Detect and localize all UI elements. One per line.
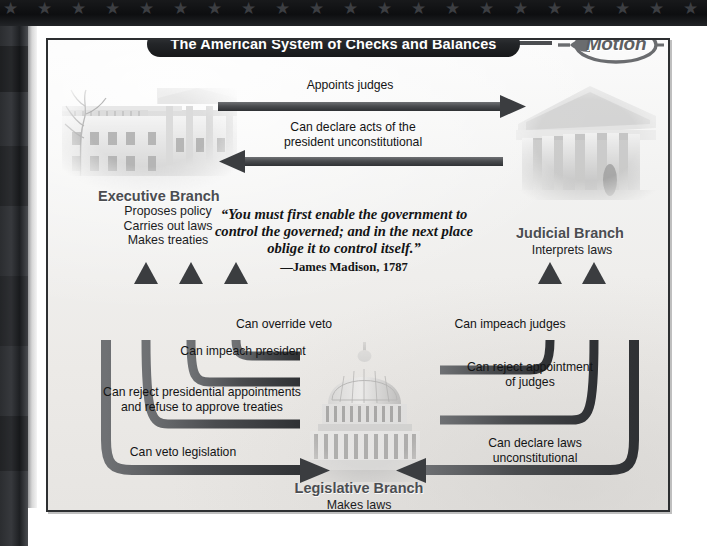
label-declare-acts-unconstitutional: Can declare acts of the president uncons… bbox=[248, 120, 458, 149]
star-icon: ★ bbox=[580, 1, 596, 17]
arrow-impeach-judges bbox=[440, 262, 562, 370]
badge-line-2: Motion bbox=[576, 38, 656, 53]
label-impeach-president: Can impeach president bbox=[148, 344, 338, 359]
star-icon: ★ bbox=[308, 1, 324, 17]
page-gutter-highlight bbox=[28, 26, 37, 546]
judicial-branch-title: Judicial Branch bbox=[516, 225, 624, 241]
diagram-title-pill: The American System of Checks and Balanc… bbox=[147, 38, 520, 57]
arrow-override-veto bbox=[224, 262, 300, 356]
star-icon: ★ bbox=[70, 1, 86, 17]
label-reject-appointments: Can reject presidential appointments and… bbox=[66, 385, 338, 414]
arrow-appoints-judges bbox=[218, 95, 526, 118]
star-icon: ★ bbox=[410, 1, 426, 17]
star-icon: ★ bbox=[36, 1, 52, 17]
star-icon: ★ bbox=[512, 1, 528, 17]
star-decoration-strip: ★★★★★★★★★★★★★★★★★★★★★ bbox=[0, 0, 707, 22]
arrow-declare-acts-unconstitutional bbox=[219, 150, 503, 173]
page-title: The American System of Checks and Balanc… bbox=[170, 38, 496, 52]
label-override-veto: Can override veto bbox=[204, 317, 364, 332]
label-reject-appointment-judges: Can reject appointment of judges bbox=[444, 360, 616, 389]
label-veto-legislation: Can veto legislation bbox=[88, 445, 278, 460]
executive-branch-title: Executive Branch bbox=[98, 188, 220, 204]
star-icon: ★ bbox=[444, 1, 460, 17]
label-impeach-judges: Can impeach judges bbox=[430, 317, 590, 332]
madison-quote: “You must first enable the government to… bbox=[200, 206, 488, 258]
star-icon: ★ bbox=[274, 1, 290, 17]
scanned-page: ★★★★★★★★★★★★★★★★★★★★★ The American Syste… bbox=[0, 0, 707, 546]
star-icon: ★ bbox=[206, 1, 222, 17]
page-bottom-margin bbox=[28, 508, 707, 546]
star-icon: ★ bbox=[240, 1, 256, 17]
star-icon: ★ bbox=[546, 1, 562, 17]
book-left-edge bbox=[0, 26, 28, 546]
arrow-reject-appointment-judges bbox=[440, 262, 606, 420]
diagram-frame: The American System of Checks and Balanc… bbox=[46, 38, 670, 512]
label-appoints-judges: Appoints judges bbox=[270, 78, 430, 93]
star-icon: ★ bbox=[376, 1, 392, 17]
star-icon: ★ bbox=[138, 1, 154, 17]
star-icon: ★ bbox=[478, 1, 494, 17]
label-declare-laws-unconstitutional: Can declare laws unconstitutional bbox=[450, 436, 620, 465]
star-icon: ★ bbox=[682, 1, 698, 17]
star-icon: ★ bbox=[172, 1, 188, 17]
judicial-branch-duties: Interprets laws bbox=[516, 243, 628, 258]
legislative-branch-title: Legislative Branch bbox=[284, 480, 434, 496]
star-icon: ★ bbox=[342, 1, 358, 17]
madison-quote-attribution: —James Madison, 1787 bbox=[200, 260, 488, 275]
star-icon: ★ bbox=[614, 1, 630, 17]
star-icon: ★ bbox=[648, 1, 664, 17]
star-icon: ★ bbox=[2, 1, 18, 17]
legislative-branch-duties: Makes laws bbox=[284, 498, 434, 512]
in-motion-badge[interactable]: In Motion bbox=[540, 38, 664, 70]
star-icon: ★ bbox=[104, 1, 120, 17]
